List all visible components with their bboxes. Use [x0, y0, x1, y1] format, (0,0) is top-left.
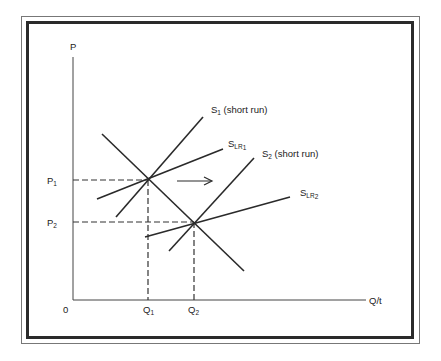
y-axis-label: P [70, 41, 76, 52]
slr2-label: SLR2 [300, 187, 319, 200]
shift-arrow-icon [177, 177, 212, 185]
p2-label: P2 [47, 217, 57, 229]
x-axis-label: Q/t [369, 295, 382, 306]
p1-label: P1 [47, 175, 57, 187]
slr2-line [145, 197, 290, 237]
supply-demand-diagram: P Q/t 0 P1 P2 Q1 Q2 S1 (short run) SLR1 … [0, 0, 441, 361]
s2-short-run-line [169, 158, 254, 251]
demand-line [102, 134, 244, 271]
s1-short-run-line [116, 117, 203, 217]
slr1-label: SLR1 [228, 138, 247, 151]
q1-label: Q1 [143, 304, 154, 316]
q2-label: Q2 [188, 304, 199, 316]
slr1-line [97, 149, 223, 199]
s1-label: S1 (short run) [211, 104, 267, 116]
s2-label: S2 (short run) [262, 148, 318, 160]
origin-label: 0 [63, 304, 68, 315]
